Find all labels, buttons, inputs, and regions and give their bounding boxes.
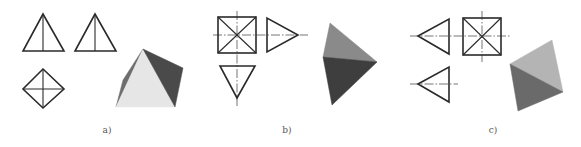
triangle-outline [418,19,449,54]
panel-a-side-view [75,14,116,51]
panel-c [410,11,563,111]
panel-a-pyramid-solid [116,49,183,107]
triangle-outline [220,66,255,98]
panel-c-label: c) [489,125,498,135]
panel-c-centerlines [410,11,510,84]
panel-b-down-triangle-view [220,66,255,98]
panel-c-square-view [463,18,501,55]
panel-c-left-triangle-top-view [418,19,449,54]
lower-face [323,57,377,105]
panel-b [213,11,377,106]
triangle-outline [418,67,449,102]
panel-b-label: b) [282,125,291,135]
three-view-projection-figure: a) b) c) [0,0,581,147]
panel-c-left-triangle-bottom-view [418,67,449,102]
upper-face [323,23,377,62]
panel-a-top-view [23,69,64,108]
panel-a [23,14,183,108]
panel-a-label: a) [103,125,112,135]
panel-b-pyramid-solid [323,23,377,105]
panel-a-front-view [23,14,64,51]
panel-c-pyramid-solid [510,40,563,111]
